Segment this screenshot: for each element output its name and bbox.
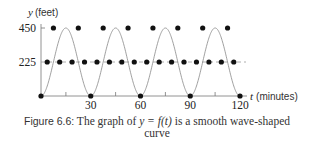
data-point xyxy=(219,59,224,64)
data-point xyxy=(132,59,137,64)
data-point xyxy=(119,59,124,64)
data-point xyxy=(125,25,130,30)
caption-line-2: curve xyxy=(10,127,304,139)
data-point xyxy=(169,59,174,64)
data-point xyxy=(51,25,56,30)
data-point xyxy=(188,93,193,98)
data-point xyxy=(181,59,186,64)
figure-caption: Figure 6.6: The graph of y = f(t) is a s… xyxy=(10,115,304,139)
data-point xyxy=(157,59,162,64)
data-point xyxy=(38,93,43,98)
data-point xyxy=(88,93,93,98)
x-tick-label-120: 120 xyxy=(231,99,249,111)
data-point xyxy=(107,59,112,64)
data-point xyxy=(206,59,211,64)
data-point xyxy=(144,59,149,64)
data-point xyxy=(237,93,242,98)
wave-chart: y(feet) t(minutes) 450 225 30 60 90 120 xyxy=(0,0,314,112)
data-point xyxy=(57,59,62,64)
data-point xyxy=(138,93,143,98)
x-tick-label-30: 30 xyxy=(85,99,97,111)
x-tick-label-60: 60 xyxy=(135,99,147,111)
data-point xyxy=(194,59,199,64)
data-point xyxy=(69,59,74,64)
caption-line-1: Figure 6.6: The graph of y = f(t) is a s… xyxy=(10,115,304,127)
caption-math: y = f(t) xyxy=(139,115,172,127)
y-tick-label-450: 450 xyxy=(19,22,37,34)
data-point xyxy=(231,59,236,64)
y-axis-label: y(feet) xyxy=(27,6,58,18)
data-point xyxy=(101,25,106,30)
data-point xyxy=(175,25,180,30)
y-tick-label-225: 225 xyxy=(19,56,37,68)
data-point xyxy=(76,25,81,30)
x-axis-label: t(minutes) xyxy=(250,90,298,102)
data-point xyxy=(200,25,205,30)
figure-label: Figure 6.6: xyxy=(24,115,74,127)
data-point xyxy=(225,25,230,30)
data-point xyxy=(45,59,50,64)
data-point xyxy=(82,59,87,64)
data-point xyxy=(150,25,155,30)
x-tick-label-90: 90 xyxy=(185,99,197,111)
data-point xyxy=(94,59,99,64)
